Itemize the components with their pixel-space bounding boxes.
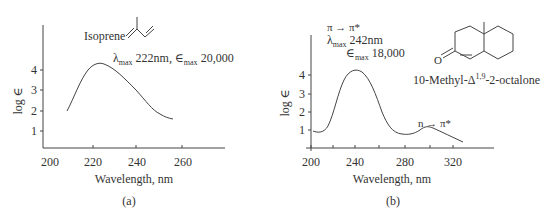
chart-b-xtick-240: 240 bbox=[346, 155, 364, 169]
chart-b-ytick-4: 4 bbox=[299, 68, 305, 82]
chart-a-xtick-200: 200 bbox=[41, 155, 59, 169]
chart-b-compound-name: 10-Methyl-Δ1,9-2-octalone bbox=[413, 72, 540, 87]
chart-b-ytick-1: 1 bbox=[299, 123, 305, 137]
chart-a-ytick-1: 1 bbox=[31, 124, 37, 138]
chart-b-epsilon-annotation: ∈max 18,000 bbox=[346, 46, 405, 62]
chart-a-y-label: log ∈ bbox=[11, 87, 25, 114]
chart-b-ytick-3: 3 bbox=[299, 87, 305, 101]
chart-a-annotation: λmax 222nm, ∈max 20,000 bbox=[113, 51, 234, 67]
chart-b: 1 2 3 4 200 240 280 320 log ∈ Wavelength… bbox=[278, 21, 540, 208]
chart-b-x-label: Wavelength, nm bbox=[353, 172, 432, 186]
chart-a-xtick-220: 220 bbox=[84, 155, 102, 169]
octalone-structure-icon bbox=[441, 22, 513, 59]
chart-b-caption: (b) bbox=[386, 194, 400, 208]
chart-a-xtick-240: 240 bbox=[128, 155, 146, 169]
chart-b-xtick-280: 280 bbox=[396, 155, 414, 169]
chart-b-xtick-320: 320 bbox=[444, 155, 462, 169]
chart-b-transition-n-label: n → π* bbox=[418, 117, 451, 129]
chart-b-xtick-200: 200 bbox=[302, 155, 320, 169]
chart-a-x-label: Wavelength, nm bbox=[95, 172, 174, 186]
figure: 1 2 3 4 200 220 240 260 log ∈ Wavelength… bbox=[0, 0, 541, 218]
octalone-oxygen-label: O bbox=[434, 54, 442, 66]
chart-a-ytick-2: 2 bbox=[31, 104, 37, 118]
chart-b-transition-pi-label: π → π* bbox=[327, 21, 360, 33]
chart-b-ytick-2: 2 bbox=[299, 105, 305, 119]
chart-a-xtick-260: 260 bbox=[174, 155, 192, 169]
chart-a-ytick-3: 3 bbox=[31, 83, 37, 97]
chart-a-absorption-curve bbox=[67, 63, 173, 119]
isoprene-structure-icon bbox=[126, 17, 154, 38]
chart-a-caption: (a) bbox=[122, 194, 135, 208]
chart-a-ytick-4: 4 bbox=[31, 63, 37, 77]
chart-b-y-label: log ∈ bbox=[278, 89, 292, 116]
chart-a: 1 2 3 4 200 220 240 260 log ∈ Wavelength… bbox=[11, 17, 234, 208]
chart-a-compound-name: Isoprene bbox=[84, 29, 125, 43]
